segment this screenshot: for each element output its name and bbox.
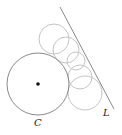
tangent-circle-3 <box>67 52 85 70</box>
circle-c-label: C <box>34 118 42 128</box>
tangent-circle-5 <box>68 76 102 110</box>
tangent-circles-group <box>39 24 102 110</box>
line-l-label: L <box>103 108 110 118</box>
tangent-circle-1 <box>39 24 69 54</box>
circle-c-center-dot <box>36 82 40 86</box>
